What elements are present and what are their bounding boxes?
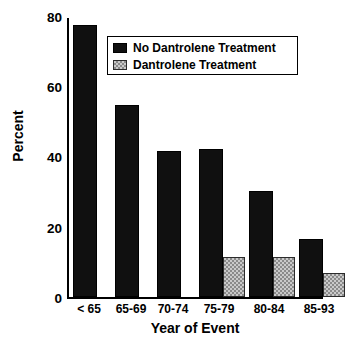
y-tick-label: 0: [22, 292, 62, 306]
y-tick-label: 60: [22, 81, 62, 95]
legend-entry-label: Dantrolene Treatment: [133, 59, 256, 71]
y-axis-tick-labels: 80 60 40 20 0: [18, 0, 62, 354]
y-tick-label: 20: [22, 222, 62, 236]
bar-no-dantrolene: [299, 239, 323, 297]
bar-dantrolene: [323, 273, 345, 297]
legend-entry-label: No Dantrolene Treatment: [133, 42, 276, 54]
bar-no-dantrolene: [157, 151, 181, 297]
x-tick-label: 85-93: [289, 302, 349, 316]
legend-entry: No Dantrolene Treatment: [113, 40, 292, 56]
chart-legend: No Dantrolene Treatment Dantrolene Treat…: [107, 36, 298, 75]
y-tick-label: 80: [22, 11, 62, 25]
bar-no-dantrolene: [249, 191, 273, 297]
x-axis-tick-labels: < 65 65-69 70-74 75-79 80-84 85-93: [67, 302, 323, 320]
bar-dantrolene: [273, 257, 295, 297]
figure-caption: [8, 344, 333, 354]
x-axis-line: [67, 297, 323, 299]
bar-no-dantrolene: [199, 149, 223, 297]
checkered-square-swatch-icon: [113, 60, 127, 70]
bar-group: [73, 18, 111, 297]
bar-group: [299, 18, 345, 297]
y-tick-label: 40: [22, 151, 62, 165]
bar-no-dantrolene: [115, 105, 139, 297]
plot-area: No Dantrolene Treatment Dantrolene Treat…: [67, 18, 323, 299]
x-axis-title: Year of Event: [67, 320, 323, 336]
legend-entry: Dantrolene Treatment: [113, 57, 292, 73]
black-square-swatch-icon: [113, 43, 127, 53]
bar-no-dantrolene: [73, 25, 97, 297]
bar-dantrolene: [223, 257, 245, 297]
